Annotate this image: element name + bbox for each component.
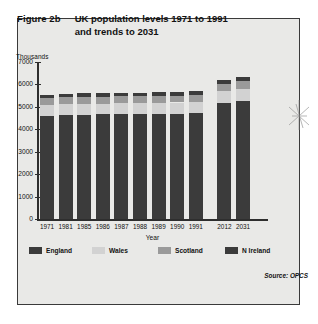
figure-number: Figure 2b: [17, 13, 61, 24]
bar-segment-n-ireland: [96, 93, 110, 97]
bar-segment-n-ireland: [189, 91, 203, 95]
bar-segment-n-ireland: [170, 92, 184, 96]
bar-segment-wales: [189, 102, 203, 113]
page-title: UK population levels 1971 to 1991 and tr…: [75, 13, 228, 38]
bar-segment-scotland: [96, 97, 110, 104]
y-axis-tick-label: 6000: [3, 80, 33, 87]
y-axis-tick-label: 0: [3, 215, 33, 222]
bar-segment-scotland: [40, 98, 54, 105]
bar-column[interactable]: [189, 91, 203, 219]
bar-column[interactable]: [152, 92, 166, 219]
bar-segment-n-ireland: [40, 95, 54, 98]
bar-column[interactable]: [133, 93, 147, 219]
x-axis-tick-label: 2031: [232, 223, 254, 230]
legend-swatch: [92, 247, 105, 254]
bar-segment-wales: [217, 91, 231, 103]
legend-item-wales[interactable]: Wales: [92, 247, 128, 254]
bar-column[interactable]: [40, 95, 54, 219]
bar-segment-scotland: [59, 97, 73, 104]
bar-column[interactable]: [170, 92, 184, 219]
bar-column[interactable]: [77, 93, 91, 219]
legend-label: Wales: [109, 247, 128, 254]
bar-segment-wales: [40, 105, 54, 116]
bar-segment-england: [189, 113, 203, 219]
bar-segment-n-ireland: [114, 93, 128, 97]
bar-column[interactable]: [96, 93, 110, 219]
bar-segment-scotland: [170, 96, 184, 103]
bar-segment-england: [170, 114, 184, 219]
bar-segment-scotland: [217, 84, 231, 91]
figure-2b: Figure 2b UK population levels 1971 to 1…: [0, 0, 318, 324]
bar-segment-england: [217, 103, 231, 219]
bar-column[interactable]: [59, 94, 73, 219]
bar-segment-wales: [133, 103, 147, 114]
y-axis-tick-label: 4000: [3, 125, 33, 132]
legend-label: Scotland: [175, 247, 203, 254]
figure-title-line-1: UK population levels 1971 to 1991: [75, 13, 228, 24]
bar-segment-wales: [77, 104, 91, 115]
bar-segment-n-ireland: [133, 93, 147, 97]
bar-segment-n-ireland: [59, 94, 73, 97]
legend-item-england[interactable]: England: [29, 247, 72, 254]
figure-heading: Figure 2b UK population levels 1971 to 1…: [17, 13, 267, 38]
x-axis-title: Year: [37, 234, 268, 241]
bar-segment-wales: [114, 103, 128, 114]
bar-segment-england: [59, 115, 73, 219]
bar-column[interactable]: [114, 93, 128, 219]
y-axis-tick-label: 1000: [3, 193, 33, 200]
bar-segment-scotland: [77, 97, 91, 104]
bar-segment-england: [152, 114, 166, 219]
legend-item-n-ireland[interactable]: N Ireland: [225, 247, 270, 254]
bar-segment-n-ireland: [152, 92, 166, 96]
source-note: Source: OPCS: [264, 272, 308, 279]
y-axis-tick-label: 5000: [3, 103, 33, 110]
y-axis-tick-label: 7000: [3, 58, 33, 65]
bar-segment-scotland: [189, 95, 203, 102]
legend-label: N Ireland: [242, 247, 270, 254]
legend-label: England: [46, 247, 72, 254]
bar-segment-england: [77, 115, 91, 219]
bar-column[interactable]: [236, 77, 250, 219]
y-axis-tick-label: 3000: [3, 148, 33, 155]
bar-segment-n-ireland: [77, 93, 91, 96]
legend-swatch: [29, 247, 42, 254]
bar-segment-scotland: [152, 96, 166, 103]
bar-segment-wales: [236, 89, 250, 101]
bar-segment-england: [96, 114, 110, 219]
decorative-scribble-icon: [286, 98, 312, 132]
x-axis-tick-label: 1991: [185, 223, 207, 230]
bar-segment-scotland: [133, 96, 147, 103]
legend-swatch: [158, 247, 171, 254]
legend-item-scotland[interactable]: Scotland: [158, 247, 203, 254]
bar-segment-england: [40, 116, 54, 219]
bar-segment-scotland: [236, 81, 250, 88]
bar-segment-wales: [59, 104, 73, 115]
bar-segment-england: [133, 114, 147, 219]
plot-area: 01000200030004000500060007000 1971198119…: [37, 62, 267, 219]
bar-column[interactable]: [217, 80, 231, 219]
bar-segment-n-ireland: [217, 80, 231, 84]
bar-series-group: [40, 62, 267, 219]
bar-segment-scotland: [114, 96, 128, 103]
y-axis-tick: [35, 219, 41, 220]
bar-segment-wales: [152, 103, 166, 114]
y-axis-tick-label: 2000: [3, 170, 33, 177]
figure-title-line-2: and trends to 2031: [75, 26, 228, 39]
bar-segment-wales: [170, 103, 184, 114]
bar-segment-england: [114, 114, 128, 219]
legend-swatch: [225, 247, 238, 254]
bar-segment-england: [236, 101, 250, 219]
x-axis-line: [37, 219, 268, 221]
bar-segment-wales: [96, 104, 110, 115]
bar-segment-n-ireland: [236, 77, 250, 81]
